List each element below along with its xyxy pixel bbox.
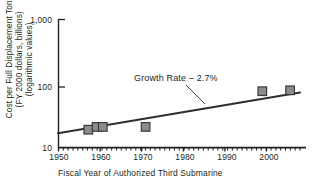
data-point-marker: [99, 123, 108, 132]
data-point-marker: [84, 125, 93, 134]
data-markers: [84, 86, 294, 134]
plot-area: [0, 0, 317, 187]
annotation-leader-line: [186, 85, 205, 104]
chart-container: Cost per Full Displacement Ton (FY 2000 …: [0, 0, 317, 187]
data-point-marker: [141, 123, 150, 132]
data-point-marker: [258, 87, 267, 96]
data-point-marker: [286, 86, 295, 95]
